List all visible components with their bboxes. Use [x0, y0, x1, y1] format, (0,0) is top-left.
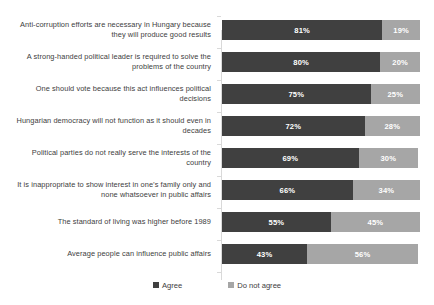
legend-label: Agree — [162, 281, 182, 290]
bar-segment-do-not-agree: 30% — [359, 148, 418, 168]
bar-segment-do-not-agree: 45% — [331, 212, 420, 232]
axis-tick — [217, 16, 221, 17]
bar-segment-agree: 66% — [222, 180, 353, 200]
axis-tick — [217, 240, 221, 241]
axis-tick — [217, 144, 221, 145]
bar-segment-do-not-agree: 56% — [307, 244, 418, 264]
bar-track: 72%28% — [222, 116, 420, 136]
bar-segment-agree: 75% — [222, 84, 371, 104]
category-label: One should vote because this act influen… — [8, 84, 211, 103]
chart-row: Anti-corruption efforts are necessary in… — [0, 14, 434, 46]
bar-segment-do-not-agree: 25% — [371, 84, 421, 104]
bar-segment-agree: 80% — [222, 52, 380, 72]
bar-segment-do-not-agree: 20% — [380, 52, 420, 72]
category-label: Average people can influence public affa… — [8, 249, 211, 259]
bar-track: 81%19% — [222, 20, 420, 40]
chart-row: One should vote because this act influen… — [0, 78, 434, 110]
bar-segment-do-not-agree: 34% — [353, 180, 420, 200]
bar-segment-do-not-agree: 19% — [382, 20, 420, 40]
legend-swatch-icon — [228, 282, 234, 288]
axis-tick — [217, 176, 221, 177]
chart-legend: AgreeDo not agree — [0, 278, 434, 292]
bar-track: 75%25% — [222, 84, 420, 104]
chart-row: Average people can influence public affa… — [0, 238, 434, 270]
axis-tick — [217, 272, 221, 273]
bar-segment-agree: 69% — [222, 148, 359, 168]
legend-item[interactable]: Agree — [153, 281, 182, 290]
chart-row: A strong-handed political leader is requ… — [0, 46, 434, 78]
chart-row: The standard of living was higher before… — [0, 206, 434, 238]
bar-segment-agree: 81% — [222, 20, 382, 40]
bar-segment-do-not-agree: 28% — [365, 116, 420, 136]
category-label: It is inappropriate to show interest in … — [8, 180, 211, 199]
bar-track: 55%45% — [222, 212, 420, 232]
category-label: Political parties do not really serve th… — [8, 148, 211, 167]
category-label: Anti-corruption efforts are necessary in… — [8, 20, 211, 39]
chart-row: Hungarian democracy will not function as… — [0, 110, 434, 142]
stacked-bar-chart: Anti-corruption efforts are necessary in… — [0, 0, 434, 305]
bar-segment-agree: 43% — [222, 244, 307, 264]
bar-track: 43%56% — [222, 244, 420, 264]
category-label: A strong-handed political leader is requ… — [8, 52, 211, 71]
legend-label: Do not agree — [237, 281, 281, 290]
axis-tick — [217, 208, 221, 209]
axis-tick — [217, 80, 221, 81]
plot-area: Anti-corruption efforts are necessary in… — [0, 14, 434, 272]
axis-tick — [217, 112, 221, 113]
bar-track: 80%20% — [222, 52, 420, 72]
category-label: The standard of living was higher before… — [8, 217, 211, 227]
bar-track: 69%30% — [222, 148, 420, 168]
bar-track: 66%34% — [222, 180, 420, 200]
legend-swatch-icon — [153, 282, 159, 288]
category-label: Hungarian democracy will not function as… — [8, 116, 211, 135]
axis-tick — [217, 48, 221, 49]
bar-segment-agree: 55% — [222, 212, 331, 232]
legend-item[interactable]: Do not agree — [228, 281, 281, 290]
chart-row: It is inappropriate to show interest in … — [0, 174, 434, 206]
chart-row: Political parties do not really serve th… — [0, 142, 434, 174]
bar-segment-agree: 72% — [222, 116, 365, 136]
